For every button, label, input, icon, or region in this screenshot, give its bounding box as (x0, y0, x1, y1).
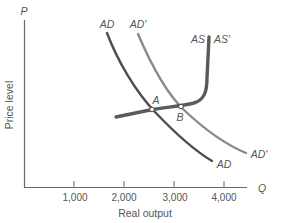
point-b-label: B (176, 111, 183, 123)
x-tick-label-2000: 2,000 (111, 192, 136, 203)
ad-top-label: AD (99, 18, 115, 30)
x-tick-label-3000: 3,000 (162, 192, 187, 203)
y-axis-symbol: P (20, 5, 27, 17)
x-axis-label: Real output (118, 207, 172, 219)
aggregate-demand-supply-chart: 1,000 2,000 3,000 4,000 P Q Price level … (0, 0, 288, 223)
ad-prime-top-label: AD' (129, 18, 148, 30)
x-tick-label-4000: 4,000 (211, 192, 236, 203)
as-label: AS (190, 33, 205, 45)
as-prime-label: AS' (213, 33, 231, 45)
x-axis-symbol: Q (258, 182, 266, 194)
y-axis-label: Price level (3, 81, 15, 129)
x-tick-label-1000: 1,000 (62, 192, 87, 203)
point-a-marker (150, 107, 155, 112)
point-b-marker (179, 104, 184, 109)
ad-prime-bottom-label: AD' (250, 148, 269, 160)
point-a-label: A (151, 94, 159, 106)
ad-bottom-label: AD (216, 158, 232, 170)
